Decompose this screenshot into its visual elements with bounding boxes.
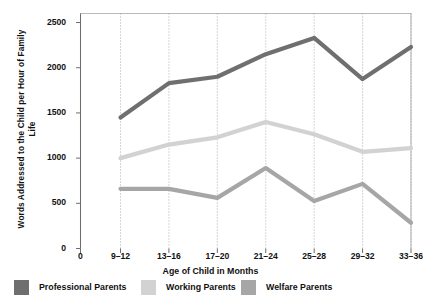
legend-color-swatch — [14, 280, 29, 295]
x-axis-tick-label: 9–12 — [111, 251, 130, 261]
x-axis-tick-label: 33–36 — [399, 251, 423, 261]
legend-item[interactable]: Welfare Parents — [241, 279, 332, 295]
x-axis-tick-label: 17–20 — [205, 251, 229, 261]
x-axis-tick-label: 21–24 — [254, 251, 278, 261]
chart-legend: Professional ParentsWorking ParentsWelfa… — [0, 279, 421, 301]
x-axis-tick-label: 29–32 — [351, 251, 375, 261]
legend-item[interactable]: Working Parents — [141, 279, 236, 295]
x-axis-title: Age of Child in Months — [0, 266, 421, 276]
x-axis-tick-label: 13–16 — [157, 251, 181, 261]
legend-item[interactable]: Professional Parents — [14, 279, 127, 295]
legend-color-swatch — [241, 280, 256, 295]
legend-label: Working Parents — [166, 282, 236, 292]
legend-label: Welfare Parents — [266, 282, 332, 292]
x-axis-tick-labels: 09–1213–1617–2021–2425–2829–3233–36 — [0, 251, 421, 267]
x-axis-tick-label: 0 — [78, 251, 83, 261]
legend-color-swatch — [141, 280, 156, 295]
x-axis-tick-label: 25–28 — [302, 251, 326, 261]
legend-label: Professional Parents — [39, 282, 127, 292]
